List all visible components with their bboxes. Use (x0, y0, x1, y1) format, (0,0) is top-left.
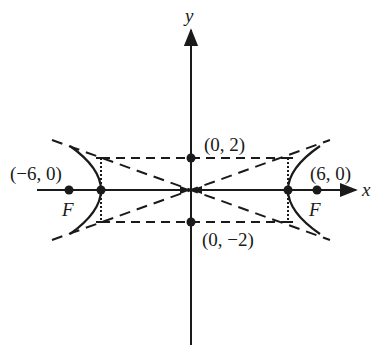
left-vertex-point (97, 186, 106, 195)
bottom-covertex-label: (0, −2) (202, 229, 254, 251)
hyperbola-diagram: y x (−6, 0) F (6, 0) F (0, 2) (0, −2) (0, 0, 379, 362)
right-focus-label: (6, 0) (310, 163, 351, 185)
x-axis-label: x (361, 179, 371, 200)
right-focus-letter: F (308, 199, 321, 220)
top-covertex-label: (0, 2) (204, 134, 245, 156)
left-focus-letter: F (61, 199, 74, 220)
right-vertex-point (284, 186, 293, 195)
right-focus-point (313, 186, 322, 195)
y-axis-label: y (183, 5, 194, 26)
left-focus-point (65, 186, 74, 195)
left-focus-label: (−6, 0) (10, 163, 62, 185)
bottom-covertex-point (187, 218, 196, 227)
top-covertex-point (187, 154, 196, 163)
